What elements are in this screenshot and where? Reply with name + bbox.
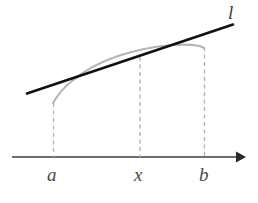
diagram-canvas [0, 0, 258, 203]
axis-label-a: a [47, 165, 57, 184]
x-axis-arrowhead [236, 152, 246, 163]
x-axis [12, 152, 246, 163]
tangent-line-label: l [228, 3, 233, 22]
curve-path [53, 45, 204, 103]
tangent-line [27, 25, 233, 94]
axis-label-b: b [199, 165, 209, 184]
tangent-line-figure: l a x b [0, 0, 258, 203]
axis-label-x: x [134, 165, 142, 184]
